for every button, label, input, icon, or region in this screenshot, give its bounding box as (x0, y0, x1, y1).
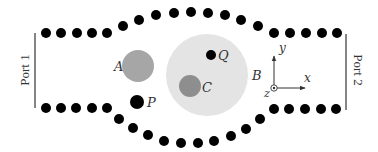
rod (316, 104, 326, 114)
rod (118, 21, 128, 31)
rod (253, 21, 263, 31)
rod (56, 28, 66, 38)
rod (203, 8, 213, 18)
rod (284, 104, 294, 114)
rod (41, 103, 51, 113)
y-axis-label: y (278, 41, 286, 55)
cavity-diagram: BAC PQ Port 1Port 2 x y z (0, 0, 378, 152)
region-label-a: A (113, 59, 123, 74)
rod (134, 15, 144, 25)
rod (102, 103, 112, 113)
region-label-b: B (251, 68, 262, 83)
rod (128, 123, 138, 133)
rod (209, 136, 219, 146)
rod (331, 104, 341, 114)
rod (87, 103, 97, 113)
point-q (206, 50, 216, 60)
rod (226, 131, 236, 141)
rod (255, 114, 265, 124)
z-axis-label: z (263, 87, 270, 100)
x-axis-label: x (304, 71, 311, 85)
region-a (122, 50, 154, 82)
rod (176, 138, 186, 148)
rod (300, 104, 310, 114)
rod (159, 136, 169, 146)
rod (186, 7, 196, 17)
rod (114, 114, 124, 124)
rod (269, 104, 279, 114)
rod (71, 103, 81, 113)
rod (151, 10, 161, 20)
rod (169, 8, 179, 18)
port-1-label: Port 1 (17, 54, 32, 85)
z-axis-dot (273, 87, 275, 89)
rod (285, 28, 295, 38)
rod (332, 28, 342, 38)
rod (143, 130, 153, 140)
rod (87, 28, 97, 38)
rod (72, 28, 82, 38)
rod (56, 103, 66, 113)
point-p (130, 95, 144, 109)
rod (220, 10, 230, 20)
rod (317, 28, 327, 38)
rod (236, 15, 246, 25)
region-c (179, 75, 201, 97)
rod (193, 138, 203, 148)
rod (301, 28, 311, 38)
point-label-p: P (146, 95, 156, 110)
rod (41, 28, 51, 38)
rod (269, 28, 279, 38)
point-label-q: Q (218, 48, 229, 63)
port-2-label: Port 2 (351, 54, 366, 85)
coordinate-axes: x y z (263, 41, 311, 100)
region-label-c: C (202, 80, 212, 95)
rod (241, 124, 251, 134)
region-b (166, 34, 248, 116)
rod (102, 28, 112, 38)
